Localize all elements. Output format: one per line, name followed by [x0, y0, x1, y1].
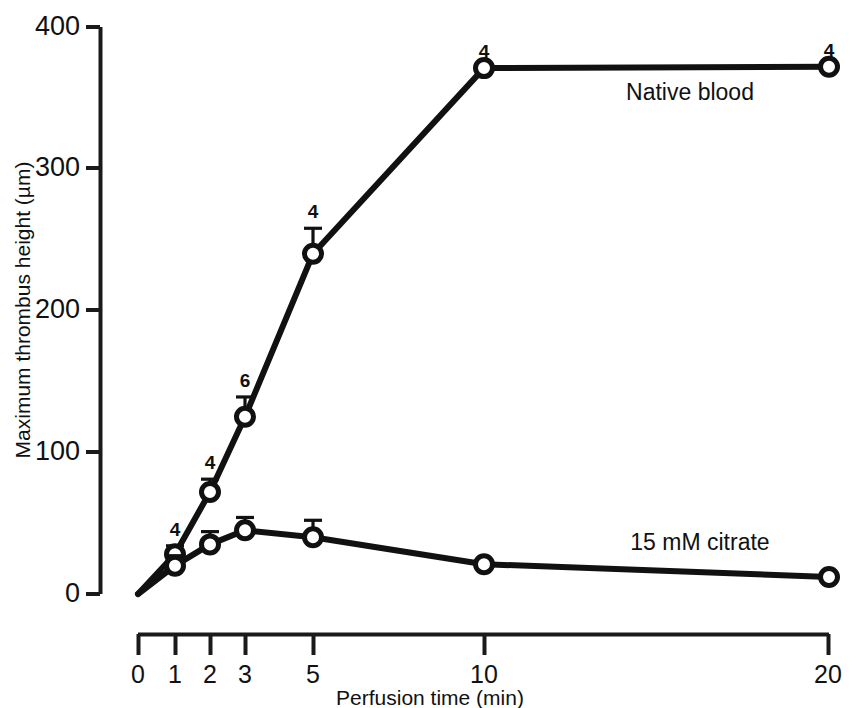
sample-size-label: 4 [205, 452, 216, 473]
series-native-blood: 446444 [138, 40, 838, 594]
data-point-marker [821, 568, 838, 585]
y-tick-label-200: 200 [35, 294, 80, 324]
sample-size-label: 4 [824, 40, 835, 61]
x-tick-label-20: 20 [814, 660, 842, 688]
x-tick-label-0: 0 [131, 660, 145, 688]
data-point-marker [237, 408, 254, 425]
chart-svg: 400 300 200 100 0 Maximum thrombus heigh… [0, 0, 860, 708]
data-point-marker [237, 522, 254, 539]
data-point-marker [476, 556, 493, 573]
data-point-marker [476, 60, 493, 77]
y-tick-label-300: 300 [35, 152, 80, 182]
plot-area: 446444 [138, 40, 838, 594]
data-point-marker [202, 483, 219, 500]
data-point-marker [167, 557, 184, 574]
y-axis: 400 300 200 100 0 Maximum thrombus heigh… [11, 11, 101, 608]
x-tick-label-5: 5 [306, 660, 320, 688]
sample-size-label: 4 [479, 41, 490, 62]
data-point-marker [305, 245, 322, 262]
x-tick-label-3: 3 [238, 660, 252, 688]
series-polyline [138, 67, 829, 594]
x-axis-ticks [139, 634, 829, 655]
series-label-native-blood: Native blood [626, 79, 754, 105]
y-tick-label-0: 0 [65, 578, 80, 608]
x-axis-title: Perfusion time (min) [336, 686, 524, 708]
data-point-marker [821, 58, 838, 75]
sample-size-label: 4 [170, 519, 181, 540]
x-tick-label-2: 2 [203, 660, 217, 688]
data-point-marker [202, 536, 219, 553]
chart-figure: 400 300 200 100 0 Maximum thrombus heigh… [0, 0, 860, 708]
sample-size-label: 4 [308, 201, 319, 222]
x-tick-label-1: 1 [168, 660, 182, 688]
y-axis-title: Maximum thrombus height (µm) [11, 162, 34, 459]
data-point-marker [305, 529, 322, 546]
x-tick-label-10: 10 [470, 660, 498, 688]
y-tick-label-400: 400 [35, 11, 80, 41]
y-tick-label-100: 100 [35, 436, 80, 466]
x-axis: 0 1 2 3 5 10 20 Perfusion time (min) [131, 634, 842, 708]
series-label-citrate: 15 mM citrate [630, 529, 769, 555]
sample-size-label: 6 [240, 370, 251, 391]
y-axis-ticks [86, 27, 100, 594]
